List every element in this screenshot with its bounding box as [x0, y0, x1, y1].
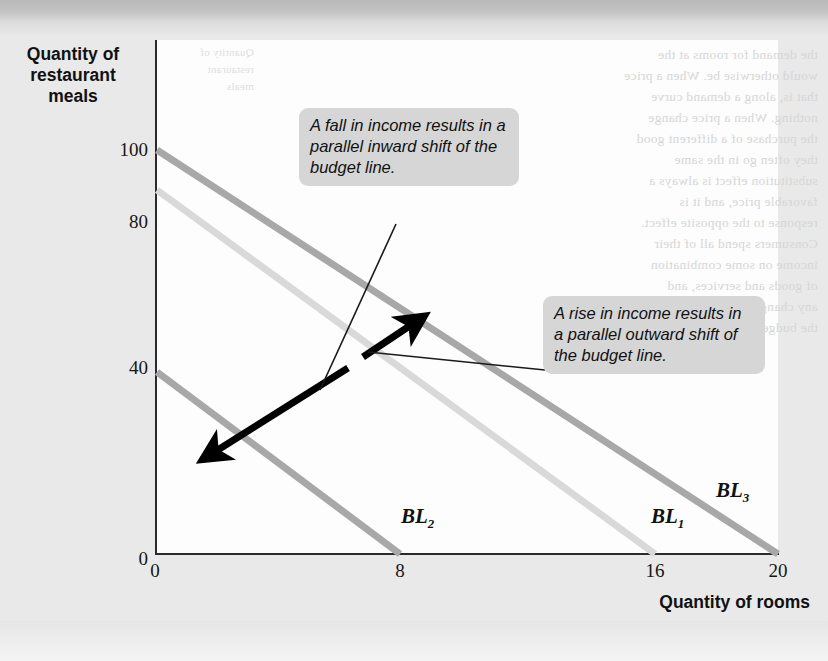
bl1-label-base: BL [651, 504, 678, 528]
inward-shift-arrow [213, 368, 348, 453]
callout-rise-in-income: A rise in income results in a parallel o… [543, 296, 765, 374]
callout-fall-in-income: A fall in income results in a parallel i… [299, 108, 519, 186]
budget-line-bl2 [157, 372, 400, 554]
inward-callout-leader [320, 224, 396, 390]
bl3-label: BL3 [716, 478, 749, 506]
bl2-label-sub: 2 [428, 516, 435, 531]
bl1-label-sub: 1 [678, 516, 685, 531]
bl2-label-base: BL [401, 504, 428, 528]
figure-root: Quantity of restaurant meals the demand … [0, 0, 828, 661]
bl1-label: BL1 [651, 504, 684, 532]
bl3-label-base: BL [716, 478, 743, 502]
bl2-label: BL2 [401, 504, 434, 532]
bl3-label-sub: 3 [743, 490, 750, 505]
